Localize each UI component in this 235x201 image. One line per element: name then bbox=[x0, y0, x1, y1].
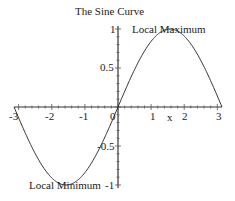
y-tick-label: -0.5 bbox=[97, 140, 115, 152]
x-tick-label: -1 bbox=[79, 110, 88, 122]
x-tick-label: -3 bbox=[9, 110, 19, 122]
local-minimum-annotation: Local Minimum bbox=[29, 179, 101, 191]
sine-chart: The Sine Curve -3 -2 -1 0 1 x 2 3 1 0.5 … bbox=[0, 0, 235, 201]
y-tick-label: -1 bbox=[105, 179, 114, 191]
x-tick-label: 1 bbox=[150, 110, 156, 122]
local-maximum-annotation: Local Maximum bbox=[132, 23, 206, 35]
y-tick-label: 1 bbox=[110, 23, 116, 35]
x-tick-label: 0 bbox=[110, 110, 116, 122]
x-tick-label: -2 bbox=[45, 110, 54, 122]
y-tick-label: 0.5 bbox=[100, 61, 114, 73]
x-axis-label: x bbox=[167, 111, 173, 123]
x-tick-label: 2 bbox=[182, 110, 188, 122]
chart-title: The Sine Curve bbox=[75, 5, 144, 17]
x-tick-label: 3 bbox=[216, 110, 222, 122]
